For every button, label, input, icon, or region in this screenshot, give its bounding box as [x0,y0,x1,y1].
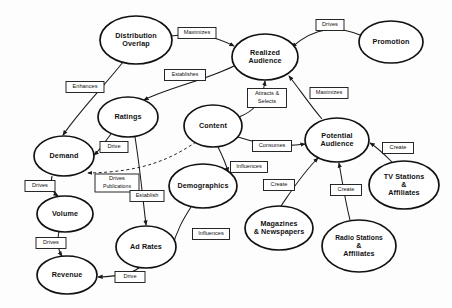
node-volume[interactable]: Volume [37,196,93,232]
edge-label-text-tv-stations-to-potential-audience: Create [390,144,407,150]
node-label-promotion: Promotion [373,37,410,46]
edge-label-text-content-to-realized-audience: Attracts & [255,90,280,96]
edge-label-text-volume-to-revenue: Drives [43,239,59,245]
causal-loop-diagram: DistributionOverlapRealizedAudiencePromo… [0,0,452,308]
edge-label-magazines-to-potential-audience: Create [264,180,295,191]
edge-label-text-demographics-to-ad-rates: Influences [198,230,224,236]
node-tv-stations[interactable]: TV Stations&Affiliates [369,161,439,209]
edge-label-content-to-realized-audience: Attracts &Selects [248,89,287,108]
edge-label-text-potential-audience-to-realized-audience: Maximizes [316,89,343,95]
nodes-layer: DistributionOverlapRealizedAudiencePromo… [34,16,439,294]
edge-label-distribution-overlap-to-realized-audience: Maximizes [178,28,216,39]
edge-label-text-distribution-overlap-to-realized-audience: Maximizes [184,29,211,35]
node-potential-audience[interactable]: PotentialAudience [305,118,369,162]
edge-label-ratings-to-demand: Drive [100,142,128,153]
edge-label-demand-to-volume: Drives [25,181,55,192]
node-label-demographics: Demographics [177,181,228,190]
edge-label-text-content-to-demographics: Influences [236,163,262,169]
edge-label-content-to-potential-audience: Consumes [253,141,292,152]
node-radio-stations[interactable]: Radio Stations&Affiliates [322,220,396,272]
edge-label-text-distribution-overlap-to-demand: Enhances [73,83,98,89]
node-magazines-newspapers[interactable]: Magazines& Newspapers [245,206,313,250]
edge-label-ad-rates-to-revenue: Drive [115,272,145,283]
node-label-demand: Demand [50,151,79,160]
edge-label-text-ad-rates-to-revenue: Drive [123,273,136,279]
edge-label-text-content-to-demand: Drives [109,175,125,181]
node-label-content: Content [199,121,227,130]
edge-label-distribution-overlap-to-demand: Enhances [66,82,104,93]
edge-label-text-realized-audience-to-ratings: Establishes [172,71,199,77]
edge-promotion-to-realized-audience [292,29,360,47]
node-ratings[interactable]: Ratings [98,97,158,137]
edge-label-realized-audience-to-ratings: Establishes [165,70,206,81]
node-label-revenue: Revenue [52,270,83,279]
node-distribution-overlap[interactable]: DistributionOverlap [100,16,172,64]
node-label-radio-stations: Affiliates [343,249,374,258]
edge-label-text-demand-to-volume: Drives [32,182,48,188]
node-label-distribution-overlap: Overlap [122,39,150,48]
edge-label-text-promotion-to-realized-audience: Drives [322,21,338,27]
edge-label-tv-stations-to-potential-audience: Create [383,143,414,154]
node-label-ad-rates: Ad Rates [130,242,162,251]
node-label-magazines-newspapers: & Newspapers [254,227,305,236]
node-promotion[interactable]: Promotion [359,21,423,63]
edge-label-text-magazines-to-potential-audience: Create [271,181,288,187]
diagram-canvas: DistributionOverlapRealizedAudiencePromo… [0,0,452,308]
edge-label-text-ratings-to-demand: Drive [107,143,120,149]
edge-label-potential-audience-to-realized-audience: Maximizes [310,88,348,99]
node-label-realized-audience: Audience [248,56,281,65]
edge-label-volume-to-revenue: Drives [36,238,66,249]
edge-label-radio-stations-to-potential-audience: Create [331,185,362,196]
edge-label-text-content-to-realized-audience: Selects [258,98,277,104]
edge-label-demographics-to-ad-rates: Influences [193,229,230,240]
edge-label-content-to-demand: DrivesPublications [95,174,139,192]
node-ad-rates[interactable]: Ad Rates [116,226,176,268]
node-realized-audience[interactable]: RealizedAudience [232,34,298,80]
edge-label-text-radio-stations-to-potential-audience: Create [338,186,355,192]
edge-label-text-content-to-demand: Publications [103,183,131,189]
node-label-ratings: Ratings [114,112,141,121]
node-demand[interactable]: Demand [34,136,94,176]
node-label-volume: Volume [52,209,78,218]
node-label-tv-stations: Affiliates [388,188,419,197]
edge-label-content-to-demographics: Influences [231,162,268,173]
edge-label-ratings-to-ad-rates: Establish [130,191,164,202]
node-content[interactable]: Content [184,105,242,147]
node-label-radio-stations: Radio Stations [335,234,383,241]
edge-label-promotion-to-realized-audience: Drives [316,20,344,31]
node-label-potential-audience: Audience [320,139,353,148]
node-revenue[interactable]: Revenue [37,256,97,294]
edge-label-text-ratings-to-ad-rates: Establish [136,192,159,198]
edge-label-text-content-to-potential-audience: Consumes [259,142,286,148]
node-demographics[interactable]: Demographics [169,164,237,208]
